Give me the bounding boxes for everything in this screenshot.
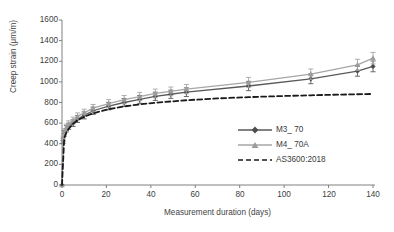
legend-label-m3-70: M3_ 70	[276, 125, 303, 134]
series-m4-70a	[59, 52, 376, 187]
series-line	[62, 58, 373, 185]
data-point-marker	[75, 114, 81, 119]
creep-strain-chart: Creep strain (μm/m) 1600 1400 1200 1000 …	[0, 0, 394, 232]
data-point-marker	[370, 55, 376, 60]
data-point-marker	[370, 64, 375, 69]
legend-item-m4-70a: M4_ 70A	[238, 137, 326, 152]
legend-key-m3-70	[238, 124, 272, 136]
legend-label-m4-70a: M4_ 70A	[276, 140, 309, 149]
legend-item-as3600: AS3600:2018	[238, 152, 326, 167]
x-axis-title: Measurement duration (days)	[62, 208, 373, 217]
series-m3-70	[59, 61, 375, 188]
legend-key-m4-70a	[238, 139, 272, 151]
plot-area	[0, 0, 394, 232]
legend-item-m3-70: M3_ 70	[238, 122, 326, 137]
legend-label-as3600: AS3600:2018	[276, 155, 326, 164]
legend-key-as3600	[238, 154, 272, 166]
series-line	[62, 66, 373, 185]
chart-legend: M3_ 70 M4_ 70A AS3600:2018	[238, 122, 326, 167]
